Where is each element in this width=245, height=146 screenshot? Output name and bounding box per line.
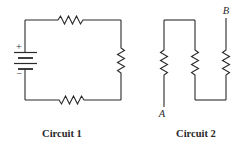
circuit-2-left-resistor <box>161 20 168 107</box>
circuit-1-battery: + − <box>14 20 37 100</box>
circuit-2-right-resistor <box>223 18 230 100</box>
circuit-1-bottom-resistor <box>25 96 121 104</box>
circuit-1: + − Circuit 1 <box>14 16 125 139</box>
terminal-b-label: B <box>223 5 230 16</box>
circuit-2: A B Circuit 2 <box>158 5 230 139</box>
circuit-1-top-resistor <box>25 16 121 24</box>
circuit-1-caption: Circuit 1 <box>42 128 82 139</box>
battery-negative-label: − <box>17 68 23 79</box>
circuit-2-middle-resistor <box>192 20 199 100</box>
circuit-2-caption: Circuit 2 <box>176 128 216 139</box>
circuit-diagram: + − Circuit 1 A B Circuit 2 <box>0 0 245 146</box>
battery-positive-label: + <box>16 41 22 52</box>
terminal-a-label: A <box>158 108 166 119</box>
circuit-1-right-resistor <box>118 20 125 100</box>
